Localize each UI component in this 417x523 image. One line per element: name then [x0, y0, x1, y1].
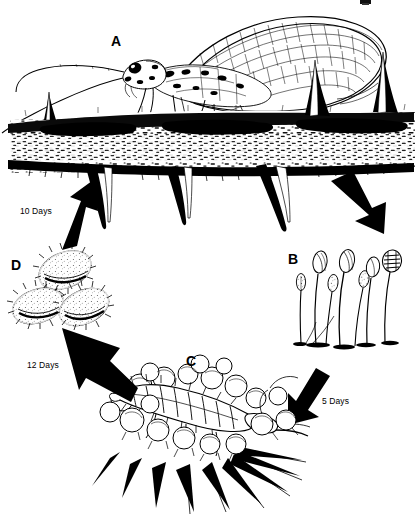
duration-label-5-days: 5 Days	[322, 396, 349, 406]
arrow-a-to-b	[331, 171, 386, 234]
stage-label-a: A	[111, 33, 121, 49]
egg-stalk	[338, 248, 357, 347]
stage-label-b: B	[288, 251, 298, 267]
stage-label-c: C	[186, 353, 196, 369]
lifecycle-figure: A B C D 10 Days 12 Days 5 Days	[0, 0, 417, 523]
egg-stalk	[365, 256, 381, 345]
duration-label-12-days: 12 Days	[27, 360, 59, 370]
lifecycle-illustration	[0, 0, 417, 523]
egg-stalk	[326, 274, 339, 345]
arrow-d-to-a	[62, 178, 98, 250]
stage-label-d: D	[11, 257, 21, 273]
egg-stalk	[296, 274, 305, 344]
duration-label-10-days: 10 Days	[20, 206, 52, 216]
arrow-c-to-d	[62, 328, 138, 402]
clipped-top-mark	[360, 0, 371, 5]
stalked-eggs-group	[293, 248, 403, 349]
cocoons-group	[7, 242, 115, 333]
egg-stalk-hatching	[381, 249, 402, 344]
egg-stalk	[312, 250, 329, 345]
leaf-substrate	[8, 104, 416, 181]
